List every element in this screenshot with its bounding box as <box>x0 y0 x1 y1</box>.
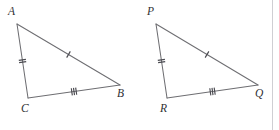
edge-cb-tick-3 <box>76 88 77 95</box>
vertex-label-b: B <box>117 88 124 100</box>
vertex-label-r: R <box>160 103 167 115</box>
edge-cb-tick-2 <box>74 88 75 95</box>
edge-rq-tick-3 <box>214 88 215 95</box>
edge-pr-tick-2 <box>158 62 165 63</box>
edge-pr <box>156 24 167 98</box>
edge-pq-tick-1 <box>205 51 209 57</box>
edge-ac-tick-2 <box>19 62 26 63</box>
vertex-label-a: A <box>8 6 15 18</box>
edge-ac <box>17 24 28 98</box>
edge-ab-tick-1 <box>67 51 71 57</box>
edge-cb-tick-1 <box>71 88 72 95</box>
geometry-figure: ACBPRQ <box>0 0 279 130</box>
edge-ac-tick-1 <box>19 59 26 60</box>
edge-rq-tick-1 <box>210 88 211 95</box>
edges-layer <box>17 24 258 98</box>
vertex-label-c: C <box>21 103 29 115</box>
vertex-label-p: P <box>147 6 154 18</box>
edge-pr-tick-1 <box>158 59 165 60</box>
triangles-canvas <box>0 0 279 130</box>
vertex-label-q: Q <box>255 88 263 100</box>
edge-rq-tick-2 <box>212 88 213 95</box>
